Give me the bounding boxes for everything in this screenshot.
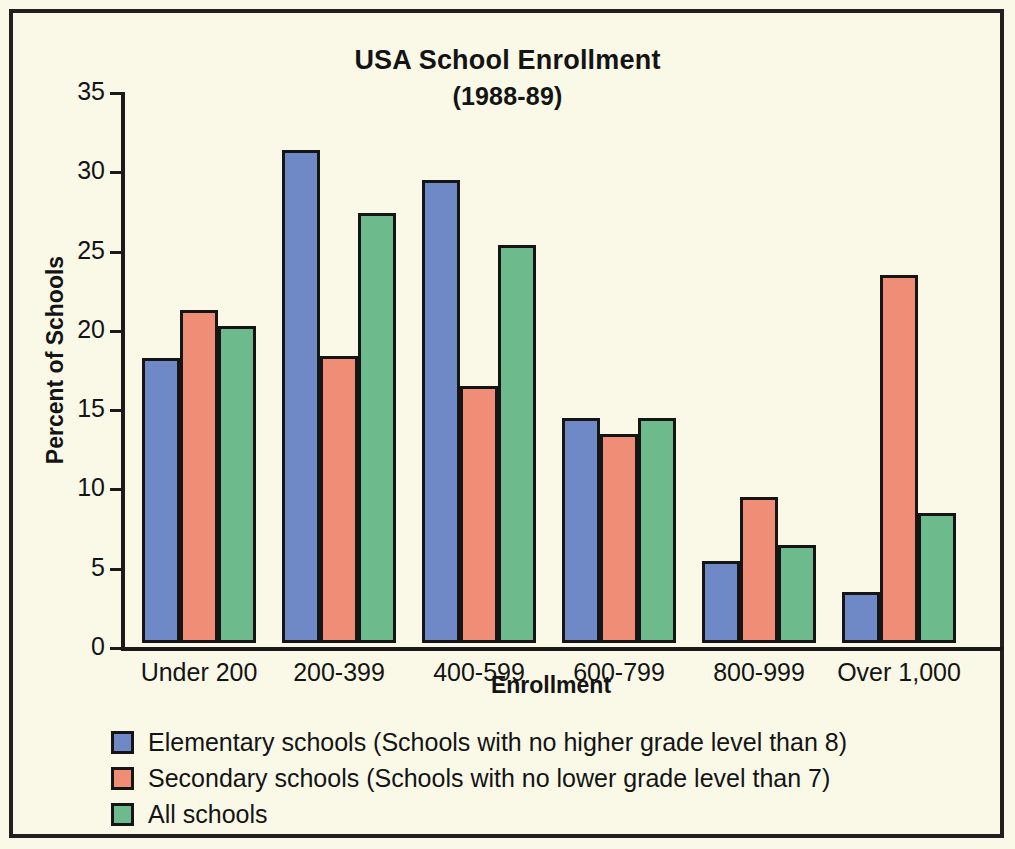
bar [498, 245, 536, 643]
bar [702, 561, 740, 643]
bar [918, 513, 956, 643]
y-axis-tick [110, 488, 121, 491]
y-axis-tick [110, 171, 121, 174]
legend-label: Elementary schools (Schools with no high… [148, 728, 847, 757]
legend-swatch-icon [111, 731, 134, 754]
y-axis-tick [110, 409, 121, 412]
y-axis-tick [110, 92, 121, 95]
legend-swatch-icon [111, 767, 134, 790]
y-axis-tick [110, 330, 121, 333]
bar [180, 310, 218, 643]
y-axis-title: Percent of Schools [42, 210, 69, 510]
bar [320, 356, 358, 643]
x-axis-title: Enrollment [121, 672, 981, 699]
legend-label: Secondary schools (Schools with no lower… [148, 764, 830, 793]
plot-area: 05101520253035 Under 200200-399400-59960… [121, 92, 981, 647]
y-axis-tick-label: 35 [35, 79, 105, 104]
bar [282, 150, 320, 643]
bar [142, 358, 180, 643]
legend-swatch-icon [111, 803, 134, 826]
chart-legend: Elementary schools (Schools with no high… [111, 724, 847, 832]
bar [880, 275, 918, 643]
y-axis-tick [110, 568, 121, 571]
bar [778, 545, 816, 643]
x-axis-line [121, 647, 1003, 651]
y-axis-tick-label: 5 [35, 555, 105, 580]
y-axis-tick [110, 647, 121, 650]
bar [460, 386, 498, 643]
legend-item: All schools [111, 796, 847, 832]
y-axis-line [121, 92, 125, 651]
bar [600, 434, 638, 643]
bar [842, 592, 880, 643]
bar [358, 213, 396, 643]
legend-label: All schools [148, 800, 268, 829]
chart-figure: USA School Enrollment (1988-89) 05101520… [0, 0, 1015, 849]
chart-title: USA School Enrollment [0, 42, 1015, 78]
bar [422, 180, 460, 643]
bar [740, 497, 778, 643]
bar [562, 418, 600, 643]
y-axis-tick-label: 0 [35, 634, 105, 659]
legend-item: Secondary schools (Schools with no lower… [111, 760, 847, 796]
legend-item: Elementary schools (Schools with no high… [111, 724, 847, 760]
y-axis-tick-label: 30 [35, 158, 105, 183]
bar [218, 326, 256, 643]
bar [638, 418, 676, 643]
y-axis-tick [110, 251, 121, 254]
